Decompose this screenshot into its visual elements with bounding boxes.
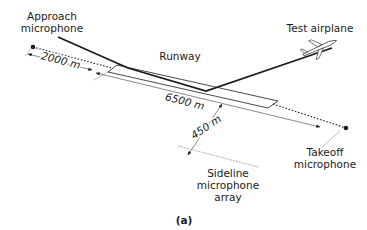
takeoff-mic-label-line1: Takeoff (285, 146, 365, 158)
sideline-label-line2: microphone (188, 179, 268, 191)
sideline-label-line1: Sideline (188, 167, 268, 179)
approach-mic-label-line1: Approach (2, 10, 102, 22)
dim-2000-label: 2000 m (40, 49, 82, 70)
approach-mic-label-line2: microphone (2, 22, 102, 34)
takeoff-mic-dot-icon (344, 126, 349, 131)
airplane-icon (298, 31, 340, 63)
sideline-label-line3: array (188, 191, 268, 203)
dim-450-label: 450 m (188, 112, 223, 141)
noise-certification-diagram: 2000 m 6500 m 450 m (0, 0, 367, 230)
dim-6500-label: 6500 m (164, 90, 206, 111)
takeoff-mic-label: Takeoff microphone (285, 146, 365, 170)
sideline-array-line (178, 146, 258, 167)
dim-6500-ext-right (322, 131, 340, 147)
test-airplane-label: Test airplane (280, 22, 360, 34)
figure-caption: (a) (164, 214, 204, 226)
sideline-array-label: Sideline microphone array (188, 167, 268, 203)
approach-mic-label: Approach microphone (2, 10, 102, 34)
takeoff-mic-label-line2: microphone (285, 158, 365, 170)
runway-label: Runway (150, 50, 210, 62)
